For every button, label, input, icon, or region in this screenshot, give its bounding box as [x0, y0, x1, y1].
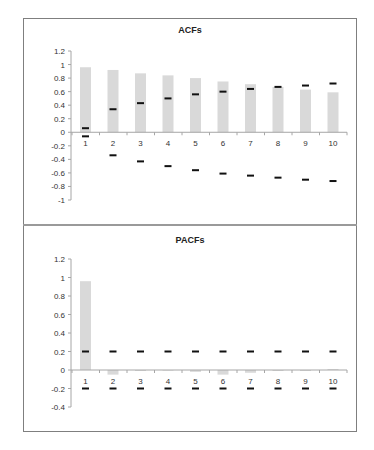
confidence-bound-marker [165, 97, 172, 99]
y-tick-label: -0.4 [51, 155, 65, 164]
y-tick-label: 1.2 [54, 47, 66, 56]
x-tick-label: 3 [138, 139, 143, 148]
bar [80, 67, 91, 132]
pacf-chart: PACFs1.210.80.60.40.20-0.2-0.41234567891… [51, 235, 347, 412]
x-tick-label: 9 [303, 377, 308, 386]
confidence-bound-marker [275, 351, 282, 353]
y-tick-label: 0.2 [54, 348, 66, 357]
bar [80, 281, 91, 370]
x-tick-label: 9 [303, 139, 308, 148]
x-tick-label: 3 [138, 377, 143, 386]
confidence-bound-marker [275, 177, 282, 179]
y-tick-label: -1 [58, 196, 66, 205]
y-tick-label: -0.4 [51, 403, 65, 412]
bar [108, 70, 119, 132]
confidence-bound-marker [137, 351, 144, 353]
x-tick-label: 1 [83, 377, 88, 386]
y-tick-label: 0 [61, 366, 66, 375]
x-tick-label: 6 [221, 139, 226, 148]
confidence-bound-marker [247, 351, 254, 353]
y-tick-label: -0.2 [51, 385, 65, 394]
x-tick-label: 8 [276, 139, 281, 148]
y-tick-label: 0.6 [54, 88, 66, 97]
confidence-bound-marker [330, 388, 337, 390]
confidence-bound-marker [192, 169, 199, 171]
y-tick-label: 0.8 [54, 74, 66, 83]
confidence-bound-marker [247, 175, 254, 177]
y-tick-label: 0.4 [54, 329, 66, 338]
confidence-bound-marker [110, 108, 117, 110]
confidence-bound-marker [302, 179, 309, 181]
y-tick-label: 0 [61, 128, 66, 137]
confidence-bound-marker [220, 351, 227, 353]
bar [245, 84, 256, 132]
confidence-bound-marker [165, 351, 172, 353]
confidence-bound-marker [110, 388, 117, 390]
y-tick-label: -0.2 [51, 142, 65, 151]
confidence-bound-marker [330, 180, 337, 182]
confidence-bound-marker [82, 388, 89, 390]
bar [300, 90, 311, 133]
confidence-bound-marker [275, 86, 282, 88]
confidence-bound-marker [137, 102, 144, 104]
x-tick-label: 7 [248, 139, 253, 148]
y-tick-label: 0.8 [54, 292, 66, 301]
x-tick-label: 5 [193, 377, 198, 386]
confidence-bound-marker [247, 388, 254, 390]
y-tick-label: 0.4 [54, 101, 66, 110]
bar [328, 92, 339, 132]
confidence-bound-marker [82, 351, 89, 353]
bar [190, 78, 201, 132]
bar [218, 81, 229, 132]
x-tick-label: 2 [111, 377, 116, 386]
confidence-bound-marker [82, 135, 89, 137]
x-tick-label: 2 [111, 139, 116, 148]
bar [163, 75, 174, 132]
confidence-bound-marker [220, 91, 227, 93]
confidence-bound-marker [220, 173, 227, 175]
y-tick-label: -0.8 [51, 182, 65, 191]
x-tick-label: 8 [276, 377, 281, 386]
x-tick-label: 1 [83, 139, 88, 148]
acf-title: ACFs [178, 25, 202, 35]
confidence-bound-marker [275, 388, 282, 390]
x-tick-label: 4 [166, 139, 171, 148]
confidence-bound-marker [165, 388, 172, 390]
confidence-bound-marker [330, 351, 337, 353]
confidence-bound-marker [220, 388, 227, 390]
confidence-bound-marker [137, 160, 144, 162]
x-tick-label: 7 [248, 377, 253, 386]
confidence-bound-marker [192, 351, 199, 353]
y-tick-label: 1 [61, 274, 66, 283]
confidence-bound-marker [247, 88, 254, 90]
confidence-bound-marker [302, 351, 309, 353]
y-tick-label: 0.6 [54, 311, 66, 320]
x-tick-label: 5 [193, 139, 198, 148]
x-tick-label: 10 [329, 139, 338, 148]
confidence-bound-marker [302, 388, 309, 390]
confidence-bound-marker [110, 351, 117, 353]
x-tick-label: 6 [221, 377, 226, 386]
confidence-bound-marker [165, 165, 172, 167]
y-tick-label: 1.2 [54, 255, 66, 264]
confidence-bound-marker [192, 93, 199, 95]
confidence-bound-marker [302, 85, 309, 87]
pacf-title: PACFs [176, 235, 205, 245]
confidence-bound-marker [82, 127, 89, 129]
confidence-bound-marker [330, 83, 337, 85]
y-tick-label: -0.6 [51, 169, 65, 178]
x-tick-label: 4 [166, 377, 171, 386]
y-tick-label: 1 [61, 61, 66, 70]
bar [218, 370, 229, 375]
confidence-bound-marker [137, 388, 144, 390]
bar [273, 87, 284, 132]
acf-chart: ACFs1.210.80.60.40.20-0.2-0.4-0.6-0.8-11… [51, 25, 347, 205]
bar [108, 370, 119, 375]
x-tick-label: 10 [329, 377, 338, 386]
confidence-bound-marker [110, 154, 117, 156]
y-tick-label: 0.2 [54, 115, 66, 124]
acf-pacf-charts: ACFs1.210.80.60.40.20-0.2-0.4-0.6-0.8-11… [0, 0, 374, 450]
confidence-bound-marker [192, 388, 199, 390]
